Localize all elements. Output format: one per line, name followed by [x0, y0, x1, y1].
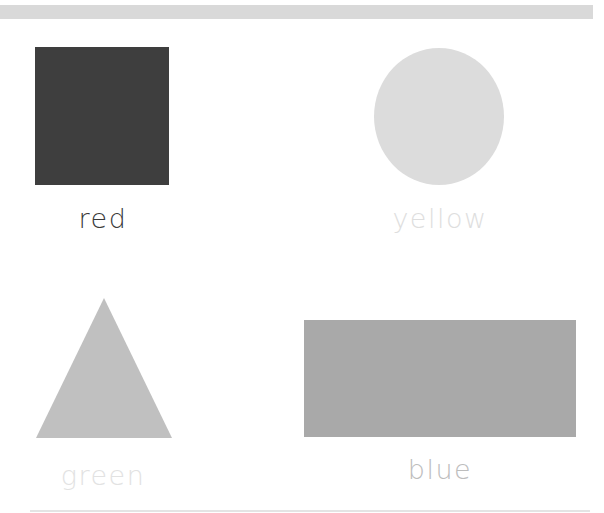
rectangle-shape: [304, 320, 576, 437]
bottom-divider: [30, 510, 590, 512]
label-blue: blue: [360, 454, 520, 485]
label-yellow: yellow: [360, 203, 520, 234]
square-shape: [35, 47, 169, 185]
circle-shape: [374, 48, 504, 185]
label-green: green: [23, 460, 183, 491]
triangle-shape: [36, 298, 172, 438]
top-divider-band: [0, 5, 593, 19]
label-red: red: [23, 203, 183, 234]
